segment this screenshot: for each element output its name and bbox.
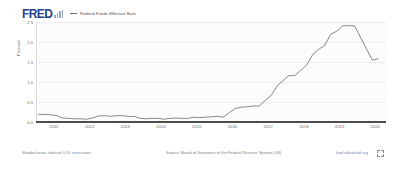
x-tick-label: 2011 (49, 124, 58, 129)
x-tick-label: 2020 (371, 124, 380, 129)
y-tick-label: 0.5 (27, 100, 33, 105)
x-axis-ticks: 2011201220132014201520162017201820192020 (36, 124, 386, 133)
chart-footer: Shaded areas indicate U.S. recessions. S… (22, 150, 384, 160)
x-tick-label: 2016 (228, 124, 237, 129)
y-tick-label: 0.0 (27, 120, 33, 125)
y-tick-label: 2.0 (27, 40, 33, 45)
x-tick-label: 2012 (85, 124, 94, 129)
y-tick-label: 2.5 (27, 20, 33, 25)
x-tick-label: 2019 (335, 124, 344, 129)
x-tick-label: 2014 (156, 124, 165, 129)
y-tick-label: 1.0 (27, 80, 33, 85)
source-note: Source: Board of Governors of the Federa… (166, 150, 281, 155)
x-tick-label: 2013 (121, 124, 130, 129)
fred-url-link[interactable]: fred.stlouisfed.org (336, 150, 368, 155)
fred-bars-icon (54, 10, 63, 18)
series-federal-funds-effective-rate (36, 22, 386, 122)
y-tick-label: 1.5 (27, 60, 33, 65)
x-tick-label: 2015 (192, 124, 201, 129)
recession-note: Shaded areas indicate U.S. recessions. (22, 150, 92, 155)
y-axis-label: Percent (16, 16, 21, 56)
chart-legend[interactable]: Federal Funds Effective Rate (70, 11, 136, 16)
x-tick-label: 2017 (263, 124, 272, 129)
expand-icon[interactable] (377, 150, 384, 157)
fred-chart-card: FRED Federal Funds Effective Rate 0.00.5… (0, 0, 406, 169)
legend-swatch-icon (70, 13, 77, 14)
x-tick-label: 2018 (299, 124, 308, 129)
legend-label: Federal Funds Effective Rate (80, 11, 136, 16)
series-line (39, 26, 378, 120)
chart-header: FRED Federal Funds Effective Rate (22, 6, 384, 21)
